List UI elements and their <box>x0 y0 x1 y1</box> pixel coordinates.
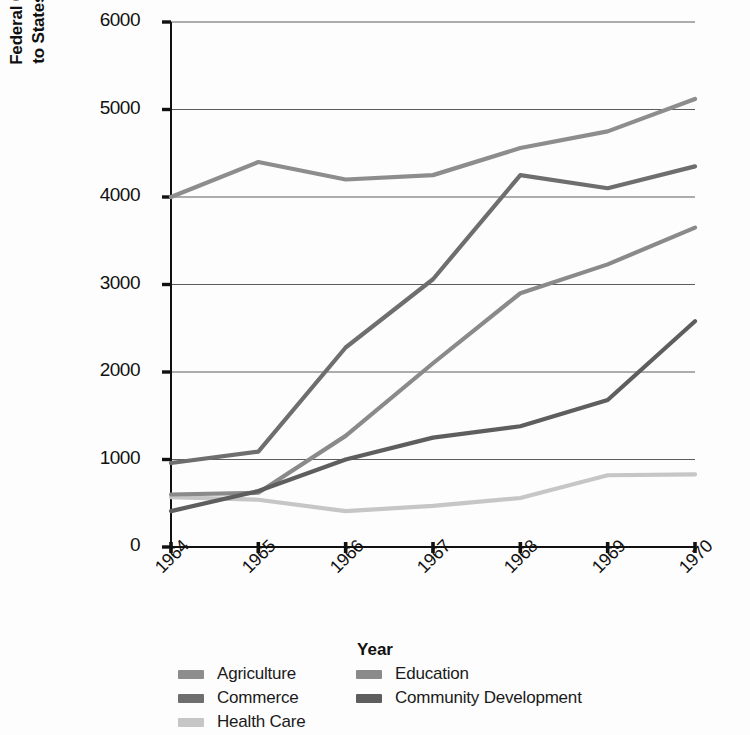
legend-label: Community Development <box>395 688 582 708</box>
legend-label: Agriculture <box>217 664 296 684</box>
y-axis-tick-label: 0 <box>30 534 140 556</box>
legend-label: Health Care <box>217 712 306 732</box>
legend-column-right: EducationCommunity Development <box>356 662 646 710</box>
y-axis-tick-label: 5000 <box>30 97 140 119</box>
line-chart: Federal Grants-in-Aidto States (in milli… <box>0 0 750 735</box>
y-axis-tick-label: 3000 <box>30 272 140 294</box>
legend-item[interactable]: Community Development <box>356 686 646 710</box>
legend-swatch-icon <box>178 718 204 727</box>
legend-swatch-icon <box>178 694 204 703</box>
y-axis-tick-label: 6000 <box>30 9 140 31</box>
legend-swatch-icon <box>356 694 382 703</box>
y-axis-tick-label: 2000 <box>30 359 140 381</box>
y-axis-tick-label: 4000 <box>30 184 140 206</box>
y-axis-tick-label: 1000 <box>30 447 140 469</box>
legend-swatch-icon <box>178 670 204 679</box>
legend-label: Education <box>395 664 469 684</box>
legend-column-left: AgricultureCommerceHealth Care <box>178 662 356 734</box>
legend-item[interactable]: Agriculture <box>178 662 356 686</box>
chart-legend: AgricultureCommerceHealth CareEducationC… <box>178 662 648 734</box>
legend-swatch-icon <box>356 670 382 679</box>
legend-item[interactable]: Commerce <box>178 686 356 710</box>
legend-item[interactable]: Health Care <box>178 710 356 734</box>
legend-label: Commerce <box>217 688 299 708</box>
x-axis-title: Year <box>0 640 750 660</box>
legend-item[interactable]: Education <box>356 662 646 686</box>
